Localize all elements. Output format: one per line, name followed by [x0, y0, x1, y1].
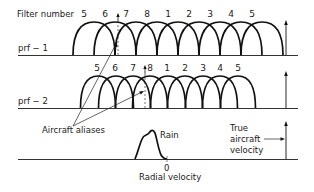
arrow-icon [139, 91, 144, 95]
prf2-row: prf − 2 5 6 7 8 1 2 3 4 5 [18, 63, 298, 109]
leader-line [73, 44, 116, 126]
aircraft-aliases-label: Aircraft aliases [42, 125, 106, 135]
prf2-filter-num: 3 [200, 63, 206, 73]
prf1-filter-arcs [73, 22, 283, 55]
prf2-filter-num: 1 [164, 63, 170, 73]
true-velocity-label-line3: velocity [230, 145, 263, 155]
arrow-up-icon [116, 13, 119, 17]
prf1-filter-num: 3 [207, 9, 213, 19]
rain-label: Rain [160, 130, 179, 140]
filter-number-label: Filter number [17, 9, 74, 19]
arrow-up-icon [284, 20, 288, 25]
prf1-filter-num: 2 [186, 9, 192, 19]
prf2-filter-num: 7 [130, 63, 136, 73]
prf1-filter-num: 1 [165, 9, 171, 19]
prf2-filter-num: 6 [112, 63, 118, 73]
prf2-filter-num: 2 [182, 63, 188, 73]
prf1-label: prf − 1 [18, 43, 48, 53]
true-velocity-label-line2: aircraft [230, 134, 261, 144]
true-velocity-label-line1: True [229, 123, 248, 133]
prf2-filter-num: 5 [235, 63, 241, 73]
radial-velocity-axis-label: Radial velocity [139, 172, 201, 182]
prf2-filter-num: 5 [94, 63, 100, 73]
prf2-filter-num: 4 [217, 63, 223, 73]
prf1-filter-num: 6 [102, 9, 108, 19]
arrow-right-icon [281, 137, 286, 140]
prf2-filter-num: 8 [147, 63, 153, 73]
prf1-filter-num: 4 [228, 9, 234, 19]
prf1-filter-numbers: 5 6 7 8 1 2 3 4 5 [81, 9, 255, 19]
prf2-label: prf − 2 [18, 96, 48, 106]
prf2-filter-arcs [81, 76, 256, 108]
prf1-filter-num: 5 [81, 9, 87, 19]
arrow-up-icon [284, 121, 288, 126]
prf1-filter-num: 8 [144, 9, 150, 19]
pulse-doppler-filter-diagram: Filter number prf − 1 5 6 7 8 1 2 3 4 5 … [0, 0, 314, 192]
prf1-filter-num: 5 [249, 9, 255, 19]
prf2-filter-numbers: 5 6 7 8 1 2 3 4 5 [94, 63, 241, 73]
arrow-up-icon [284, 71, 288, 76]
prf1-filter-num: 7 [123, 9, 129, 19]
